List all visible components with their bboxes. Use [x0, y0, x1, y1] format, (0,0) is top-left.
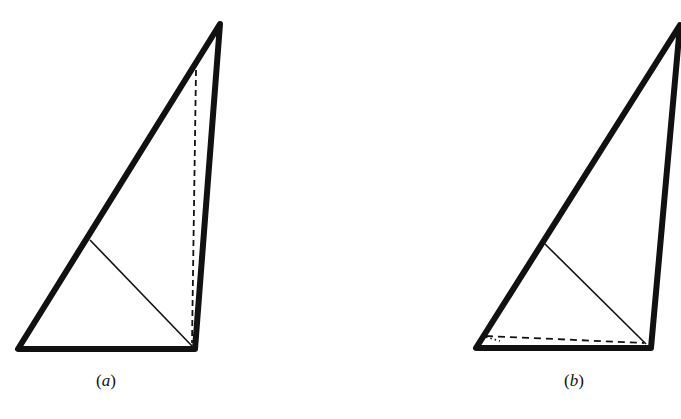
dashed-altitude-b	[486, 336, 644, 343]
label-letter-b: b	[570, 371, 579, 390]
figure-b	[476, 25, 680, 348]
perpendicular-line-b	[545, 244, 646, 344]
triangle-a	[18, 24, 220, 349]
perpendicular-line-a	[90, 240, 192, 346]
dashed-altitude-a	[192, 70, 196, 343]
diagram-canvas	[0, 0, 681, 419]
label-letter-a: a	[102, 371, 111, 390]
dotted-stub-b	[486, 337, 500, 341]
figure-label-a: (a)	[96, 371, 116, 391]
figure-label-b: (b)	[564, 371, 584, 391]
triangle-b	[476, 25, 680, 348]
figure-a	[18, 24, 220, 349]
